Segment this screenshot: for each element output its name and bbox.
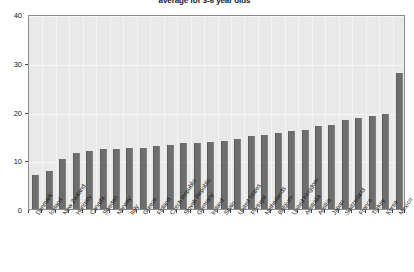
y-tick-label: 40 xyxy=(14,11,22,20)
bar-series xyxy=(29,16,404,209)
bar xyxy=(369,116,376,209)
y-tick-label: 30 xyxy=(14,59,22,68)
bar xyxy=(342,120,349,209)
plot-area xyxy=(28,15,405,210)
y-tick-label: 20 xyxy=(14,108,22,117)
bar xyxy=(328,125,335,209)
y-tick-label: 10 xyxy=(14,157,22,166)
y-axis: 010203040 xyxy=(0,0,28,225)
bar xyxy=(140,148,147,209)
chart-title: average for 3-6 year olds xyxy=(0,0,409,5)
bar xyxy=(396,73,403,210)
y-tick-label: 0 xyxy=(18,206,22,215)
bar xyxy=(382,114,389,209)
bar xyxy=(234,139,241,209)
x-axis-labels: DenmarkIcelandNew ZealandHungaryCanadaSw… xyxy=(28,212,409,272)
